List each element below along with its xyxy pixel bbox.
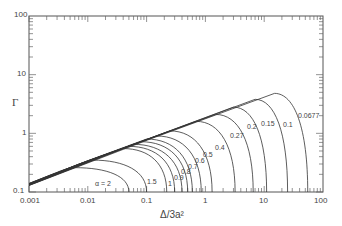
curve-label-0.4: 0.4 (215, 144, 225, 151)
x-tick-10: 10 (259, 197, 268, 205)
x-tick-0.001: 0.001 (20, 197, 40, 205)
curve-0.4 (29, 131, 212, 192)
curve-0.2 (29, 114, 253, 192)
curve-label-0.5: 0.5 (203, 151, 213, 158)
curve-0.5 (29, 136, 201, 192)
curve-label-0.2: 0.2 (247, 123, 257, 130)
curve-label-0.27: 0.27 (230, 132, 244, 139)
curve-label-0.15: 0.15 (261, 120, 275, 127)
curve-label-1.5: 1.5 (147, 178, 157, 185)
x-tick-0.1: 0.1 (141, 197, 152, 205)
y-tick-0.1: 0.1 (13, 187, 24, 195)
y-tick-100: 100 (14, 11, 27, 19)
curve-label-0.1: 0.1 (283, 121, 293, 128)
x-tick-1: 1 (203, 197, 207, 205)
plot-area (0, 0, 342, 226)
curve-0.1 (29, 99, 288, 192)
curve-label-0.7: 0.7 (188, 163, 198, 170)
curve-label-0.0677: 0.0677 (298, 112, 319, 119)
curve-label-alpha-2: α = 2 (95, 180, 111, 187)
x-axis-label: Δ/3a² (160, 210, 184, 220)
y-tick-1: 1 (22, 129, 26, 137)
curve-label-0.9: 0.9 (174, 174, 184, 181)
curve-label-0.6: 0.6 (195, 157, 205, 164)
y-tick-10: 10 (17, 70, 26, 78)
x-tick-0.01: 0.01 (80, 197, 96, 205)
curve-label-1: 1 (168, 180, 172, 187)
y-axis-label: Γ (12, 97, 18, 108)
x-tick-100: 100 (314, 197, 327, 205)
